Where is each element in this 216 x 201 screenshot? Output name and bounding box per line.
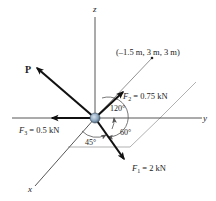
force-p-label: P: [25, 64, 31, 75]
particle: [90, 113, 100, 123]
position-point: [151, 57, 154, 60]
point-coordinates-label: (–1.5 m, 3 m, 3 m): [116, 47, 180, 57]
axes: [12, 17, 202, 186]
force-f1-label: F1 = 2 kN: [131, 163, 166, 174]
arc-45: [82, 131, 106, 137]
force-f2-label: F2 = 0.75 kN: [122, 91, 168, 102]
angle-45-label: 45°: [85, 138, 96, 147]
force-f1-value: = 2 kN: [140, 163, 166, 173]
x-axis-label: x: [27, 184, 32, 194]
z-axis-label: z: [92, 4, 97, 14]
force-f3-value: = 0.5 kN: [27, 125, 59, 135]
force-f2-value: = 0.75 kN: [131, 91, 167, 101]
force-arrows: [37, 68, 124, 159]
angle-60-label: 60°: [120, 128, 131, 137]
force-diagram: z y x P (–1.5 m, 3 m, 3 m) F2 = 0.75 kN …: [0, 0, 216, 201]
guide-line-y-to-front: [130, 118, 160, 147]
y-axis-label: y: [202, 113, 207, 123]
force-f3-label: F3 = 0.5 kN: [18, 125, 59, 136]
angle-120-label: 120°: [110, 104, 125, 113]
force-p-arrow: [37, 68, 95, 118]
arc-60: [112, 118, 114, 129]
force-f1-arrow: [95, 118, 124, 159]
